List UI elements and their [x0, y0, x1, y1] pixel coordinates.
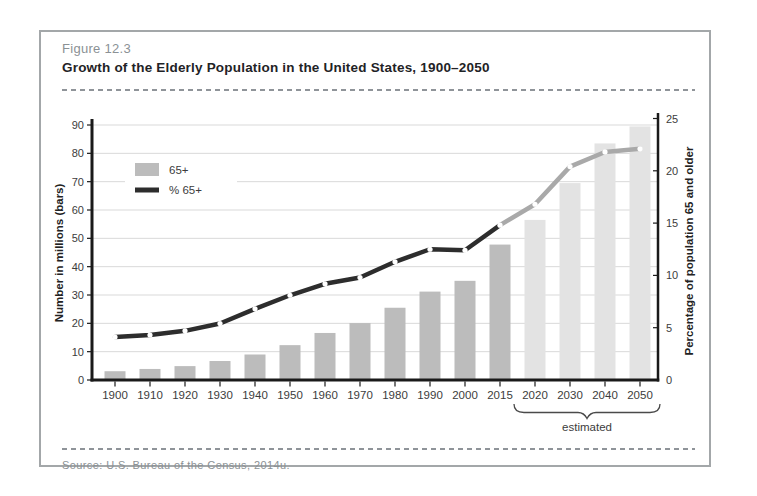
source-text: Source: U.S. Bureau of the Census, 2014u… — [62, 458, 688, 472]
right-tick-label: 10 — [666, 269, 678, 281]
x-tick-label: 1980 — [382, 389, 408, 401]
data-point-1990 — [427, 247, 432, 252]
left-tick-label: 40 — [72, 261, 84, 273]
data-point-1900 — [112, 335, 117, 340]
data-point-1970 — [357, 275, 362, 280]
dashed-separator-bottom — [62, 448, 695, 450]
figure-title: Growth of the Elderly Population in the … — [62, 59, 688, 77]
left-axis-title: Number in millions (bars) — [53, 184, 65, 323]
data-point-1940 — [252, 306, 257, 311]
left-tick-label: 20 — [72, 317, 84, 329]
bar-2020 — [525, 220, 546, 380]
x-tick-label: 1920 — [172, 389, 198, 401]
bar-2050 — [630, 126, 651, 380]
data-point-1960 — [322, 281, 327, 286]
bar-2040 — [595, 143, 616, 380]
x-tick-label: 1930 — [207, 389, 233, 401]
x-tick-label: 1910 — [137, 389, 163, 401]
data-point-2020 — [532, 202, 537, 207]
bar-2015 — [490, 245, 511, 380]
legend-bar-swatch — [135, 163, 159, 176]
data-point-2030 — [567, 164, 572, 169]
x-tick-label: 1950 — [277, 389, 303, 401]
estimated-label: estimated — [562, 421, 612, 433]
right-tick-label: 20 — [666, 165, 678, 177]
data-point-1950 — [287, 293, 292, 298]
left-tick-label: 80 — [72, 147, 84, 159]
legend-background — [125, 155, 237, 205]
x-tick-label: 1960 — [312, 389, 338, 401]
left-tick-label: 30 — [72, 289, 84, 301]
left-tick-label: 50 — [72, 232, 84, 244]
x-tick-label: 2015 — [487, 389, 513, 401]
dashed-separator-top — [62, 89, 695, 91]
pct-line-historical — [115, 225, 500, 337]
data-point-2000 — [462, 248, 467, 253]
figure-number: Figure 12.3 — [62, 41, 688, 57]
x-tick-label: 2020 — [522, 389, 548, 401]
data-point-1920 — [182, 328, 187, 333]
bar-1960 — [315, 333, 336, 380]
bar-1910 — [140, 369, 161, 380]
population-chart: 0102030405060708090051015202519001910192… — [41, 101, 709, 436]
x-tick-label: 2000 — [452, 389, 478, 401]
left-tick-label: 90 — [72, 119, 84, 131]
page: Figure 12.3 Growth of the Elderly Popula… — [0, 0, 757, 496]
right-axis-title: Percentage of population 65 and older — [683, 146, 695, 355]
legend-label-line: % 65+ — [169, 184, 202, 196]
bar-1980 — [385, 308, 406, 380]
right-tick-label: 25 — [666, 113, 678, 125]
right-tick-label: 5 — [666, 322, 672, 334]
right-tick-label: 15 — [666, 217, 678, 229]
bar-1940 — [245, 355, 266, 381]
x-tick-label: 1940 — [242, 389, 268, 401]
figure-frame: Figure 12.3 Growth of the Elderly Popula… — [39, 30, 711, 467]
right-tick-label: 0 — [666, 374, 672, 386]
bar-1930 — [210, 361, 231, 380]
bar-1990 — [420, 292, 441, 380]
legend-label-bars: 65+ — [169, 164, 189, 176]
data-point-2040 — [602, 149, 607, 154]
x-tick-label: 2040 — [592, 389, 618, 401]
x-tick-label: 2030 — [557, 389, 583, 401]
x-tick-label: 1900 — [102, 389, 128, 401]
left-tick-label: 70 — [72, 176, 84, 188]
estimated-brace — [514, 404, 660, 419]
bar-1920 — [175, 366, 196, 380]
x-tick-label: 1970 — [347, 389, 373, 401]
left-tick-label: 10 — [72, 346, 84, 358]
data-point-1980 — [392, 259, 397, 264]
bar-2000 — [455, 281, 476, 380]
data-point-1910 — [147, 332, 152, 337]
x-tick-label: 1990 — [417, 389, 443, 401]
data-point-2015 — [497, 223, 502, 228]
bar-1950 — [280, 345, 301, 380]
data-point-1930 — [217, 321, 222, 326]
left-tick-label: 60 — [72, 204, 84, 216]
data-point-2050 — [637, 146, 642, 151]
bar-1970 — [350, 323, 371, 380]
left-tick-label: 0 — [78, 374, 84, 386]
bar-2030 — [560, 183, 581, 380]
x-tick-label: 2050 — [627, 389, 653, 401]
